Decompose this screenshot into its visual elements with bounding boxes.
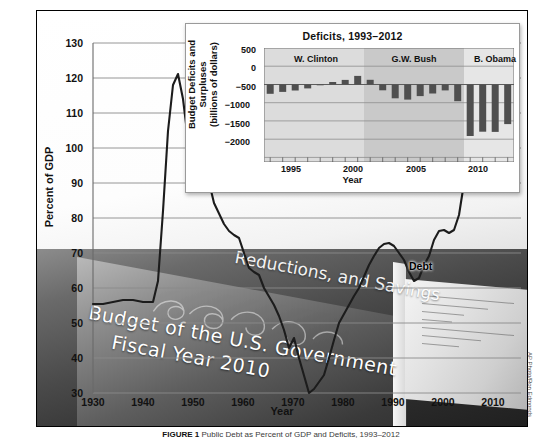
bar-2012	[504, 85, 511, 125]
main-xtick-1930: 1930	[68, 396, 118, 408]
main-xtick-1940: 1940	[118, 396, 168, 408]
bar-2003	[392, 85, 399, 99]
main-xtick-1970: 1970	[268, 396, 318, 408]
main-ytick-50: 50	[51, 317, 83, 329]
main-ytick-130: 130	[51, 37, 83, 49]
main-ytick-100: 100	[51, 142, 83, 154]
main-xtick-1980: 1980	[318, 396, 368, 408]
inset-xtick-1995: 1995	[271, 164, 311, 174]
bar-2009	[467, 85, 474, 137]
bar-1998	[329, 82, 336, 85]
inset-ytick-500: 500	[222, 45, 256, 55]
bar-2011	[492, 85, 499, 132]
bar-2010	[479, 85, 486, 132]
main-xtick-1950: 1950	[168, 396, 218, 408]
bar-1997	[317, 85, 324, 86]
era-label-obama: B. Obama	[469, 54, 521, 64]
inset-ytick-neg500: −500	[222, 82, 256, 92]
inset-y-axis-title-line1: Budget Deficits and Surpluses	[186, 25, 208, 145]
main-ytick-60: 60	[51, 282, 83, 294]
inset-ytick-neg2000: −2000	[216, 137, 250, 147]
main-ytick-40: 40	[51, 352, 83, 364]
main-xtick-2000: 2000	[418, 396, 468, 408]
bar-2007	[442, 85, 449, 91]
inset-ytick-neg1500: −1500	[216, 119, 250, 129]
main-xtick-1960: 1960	[218, 396, 268, 408]
debt-series-label: Debt	[409, 260, 432, 272]
figure-caption-prefix: FIGURE 1	[162, 430, 199, 439]
bar-1994	[279, 85, 286, 92]
bar-1995	[292, 85, 299, 91]
bar-2006	[429, 85, 436, 94]
bar-1993	[267, 85, 274, 94]
main-ytick-80: 80	[51, 212, 83, 224]
inset-ytick-0: 0	[222, 63, 256, 73]
figure-caption-text: Public Debt as Percent of GDP and Defici…	[201, 430, 399, 439]
bar-2001	[367, 80, 374, 85]
era-band-clinton	[264, 48, 364, 162]
figure-frame: Reductions, and Savings Budget of the U.…	[36, 10, 528, 427]
inset-x-axis-title: Year	[186, 174, 519, 185]
main-ytick-110: 110	[51, 107, 83, 119]
bar-2004	[404, 85, 411, 100]
main-xtick-1990: 1990	[368, 396, 418, 408]
main-ytick-90: 90	[51, 177, 83, 189]
inset-xtick-2010: 2010	[458, 164, 498, 174]
inset-y-axis-title: Budget Deficits and Surpluses (billions …	[186, 25, 219, 145]
inset-xtick-2000: 2000	[333, 164, 373, 174]
era-label-bush: G.W. Bush	[384, 54, 444, 64]
era-label-clinton: W. Clinton	[286, 54, 346, 64]
bar-1996	[304, 85, 311, 89]
main-ytick-120: 120	[51, 72, 83, 84]
inset-xtick-2005: 2005	[396, 164, 436, 174]
inset-chart-svg	[264, 48, 514, 162]
photo-credit: AP Photo/Ron Edmonds	[527, 352, 533, 417]
inset-chart-title: Deficits, 1993–2012	[186, 30, 519, 42]
bar-2008	[454, 85, 461, 102]
bar-2002	[379, 85, 386, 91]
main-ytick-70: 70	[51, 247, 83, 259]
era-band-bush	[364, 48, 464, 162]
bar-2000	[354, 76, 361, 85]
figure-caption: FIGURE 1 Public Debt as Percent of GDP a…	[36, 430, 526, 439]
bar-2005	[417, 85, 424, 97]
inset-ytick-neg1000: −1000	[216, 100, 250, 110]
bar-1999	[342, 80, 349, 85]
inset-deficits-chart: Deficits, 1993–2012 Budget Deficits and …	[185, 23, 520, 193]
figure-root: Reductions, and Savings Budget of the U.…	[0, 0, 557, 445]
main-xtick-2010: 2010	[468, 396, 518, 408]
